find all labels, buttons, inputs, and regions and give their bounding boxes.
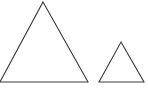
shapes-svg [0, 0, 148, 92]
large-triangle [0, 2, 88, 82]
geometry-figure-canvas [0, 0, 148, 92]
small-triangle [99, 42, 144, 82]
